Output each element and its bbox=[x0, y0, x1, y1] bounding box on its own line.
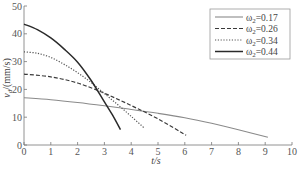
series-line-3 bbox=[24, 52, 145, 128]
x-tick-label: 2 bbox=[75, 146, 80, 157]
legend-label-rest: =0.44 bbox=[256, 47, 278, 57]
y-tick-label: 0 bbox=[17, 140, 22, 151]
legend-label-rest: =0.34 bbox=[256, 36, 278, 46]
series-line-4 bbox=[24, 24, 120, 130]
legend-label-rest: =0.17 bbox=[256, 13, 278, 23]
y-tick-label: 40 bbox=[12, 28, 22, 39]
legend: ω2=0.17ω2=0.26ω2=0.34ω2=0.44 bbox=[210, 9, 290, 59]
x-tick-label: 4 bbox=[129, 146, 134, 157]
y-tick-label: 10 bbox=[12, 112, 22, 123]
x-tick-label: 9 bbox=[263, 146, 268, 157]
x-tick-label: 6 bbox=[182, 146, 187, 157]
x-tick-label: 10 bbox=[287, 146, 297, 157]
x-tick-label: 3 bbox=[102, 146, 107, 157]
series-line-2 bbox=[24, 74, 186, 135]
y-axis-label-rest: /(mm/s) bbox=[1, 58, 13, 90]
x-axis-label: t/s bbox=[151, 155, 161, 166]
x-tick-label: 1 bbox=[48, 146, 53, 157]
line-chart: 01234567891001020304050 ω2=0.17ω2=0.26ω2… bbox=[0, 0, 298, 175]
y-tick-label: 30 bbox=[12, 56, 22, 67]
y-tick-label: 50 bbox=[12, 1, 22, 12]
x-tick-label: 8 bbox=[236, 146, 241, 157]
x-tick-label: 0 bbox=[22, 146, 27, 157]
series-line-1 bbox=[24, 98, 268, 137]
x-tick-label: 7 bbox=[209, 146, 214, 157]
legend-label-rest: =0.26 bbox=[256, 24, 278, 34]
